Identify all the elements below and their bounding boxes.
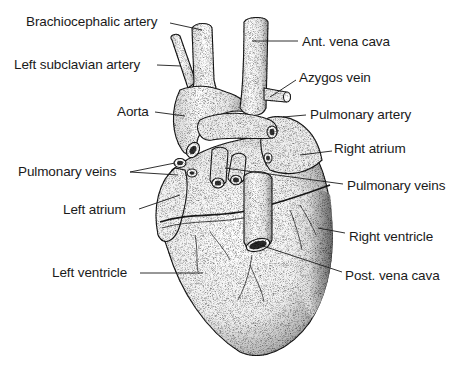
label-aorta: Aorta [117,104,149,120]
heart-diagram: Brachiocephalic artery Left subclavian a… [0,0,469,374]
label-pulmonary-veins-right: Pulmonary veins [347,178,445,194]
label-left-subclavian-artery: Left subclavian artery [14,57,140,73]
ant-vena-cava-vessel [240,18,268,116]
label-left-atrium: Left atrium [63,202,126,218]
pulmonary-artery-vessel [198,113,277,140]
label-azygos-vein: Azygos vein [299,70,371,86]
label-left-ventricle: Left ventricle [52,265,127,281]
label-brachiocephalic-artery: Brachiocephalic artery [26,14,157,30]
label-post-vena-cava: Post. vena cava [345,268,440,284]
label-ant-vena-cava: Ant. vena cava [302,34,390,50]
label-pulmonary-artery: Pulmonary artery [310,107,411,123]
label-right-atrium: Right atrium [334,141,406,157]
label-right-ventricle: Right ventricle [349,229,433,245]
label-pulmonary-veins-left: Pulmonary veins [18,164,116,180]
